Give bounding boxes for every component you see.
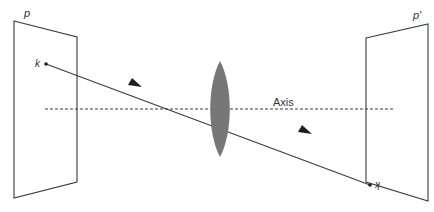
object-plane-label: p bbox=[23, 7, 30, 19]
ray-arrow-icon bbox=[298, 125, 312, 134]
object-point-label: k bbox=[35, 58, 41, 69]
ray-arrow-icon bbox=[128, 78, 142, 87]
light-ray bbox=[46, 64, 370, 185]
image-plane-label: p' bbox=[412, 9, 422, 21]
converging-lens bbox=[210, 61, 230, 157]
axis-label: Axis bbox=[273, 96, 294, 108]
image-point-label: k bbox=[374, 180, 380, 191]
lens-imaging-diagram: p p' Axis k k bbox=[0, 0, 434, 212]
object-point bbox=[44, 62, 48, 66]
image-plane bbox=[366, 24, 428, 201]
image-point bbox=[368, 183, 372, 187]
